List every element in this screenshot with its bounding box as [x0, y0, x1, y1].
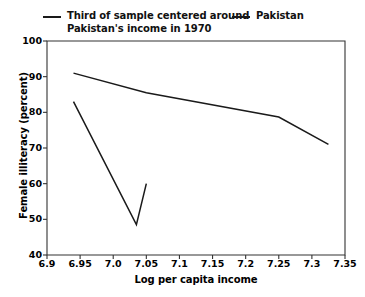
- chart-figure: Third of sample centered around Pakistan…: [0, 0, 365, 297]
- series-line-0: [73, 102, 146, 225]
- plot-area: [0, 0, 365, 297]
- series-line-1: [73, 73, 328, 144]
- plot-frame: [47, 41, 345, 255]
